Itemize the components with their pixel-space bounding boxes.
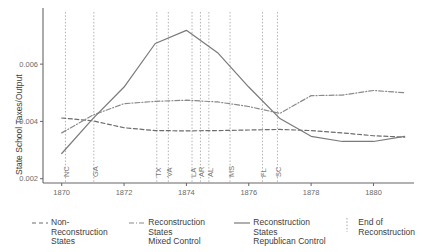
event-label-al: AL	[206, 168, 215, 177]
chart-container: State School Taxes/Output NCGATXVALAARAL…	[0, 0, 422, 252]
series-line-reconstruction-states-republican-control	[62, 30, 405, 153]
legend-label-end-of-reconstruction: End of Reconstruction	[358, 218, 415, 237]
event-label-sc: SC	[274, 166, 283, 177]
y-tick-label: 0.006	[19, 60, 38, 69]
plot-area: NCGATXVALAARALMSFLSC0.0020.0040.00618701…	[0, 0, 422, 218]
x-tick-label: 1878	[303, 188, 320, 197]
event-label-va: VA	[165, 168, 174, 177]
series-line-non-reconstruction-states	[62, 118, 405, 137]
legend-row: Non-Reconstruction States Reconstruction…	[0, 218, 422, 247]
x-tick-label: 1874	[178, 188, 195, 197]
x-tick-label: 1870	[53, 188, 70, 197]
legend-swatch-dashed	[32, 218, 48, 233]
legend-item-non-reconstruction: Non-Reconstruction States	[32, 218, 122, 247]
legend-label-mixed-control: Reconstruction States Mixed Control	[148, 218, 227, 247]
series-line-reconstruction-states-mixed-control	[62, 90, 405, 132]
legend-swatch-dotted	[339, 218, 355, 233]
legend-label-republican-control: Reconstruction States Republican Control	[253, 218, 332, 247]
x-tick-label: 1872	[116, 188, 133, 197]
legend-swatch-solid	[234, 218, 250, 233]
x-tick-label: 1876	[240, 188, 257, 197]
y-tick-label: 0.004	[19, 117, 38, 126]
event-label-nc: NC	[62, 166, 71, 177]
legend-label-non-reconstruction: Non-Reconstruction States	[51, 218, 122, 247]
legend-item-end-of-reconstruction: End of Reconstruction	[339, 218, 415, 237]
legend-swatch-dash-dot	[129, 218, 145, 233]
event-label-ms: MS	[227, 166, 236, 177]
event-label-tx: TX	[154, 167, 163, 177]
legend-item-republican-control: Reconstruction States Republican Control	[234, 218, 332, 247]
chart-legend: Non-Reconstruction States Reconstruction…	[0, 218, 422, 252]
event-label-ga: GA	[91, 166, 100, 177]
x-tick-label: 1880	[365, 188, 382, 197]
y-tick-label: 0.002	[19, 174, 38, 183]
legend-item-mixed-control: Reconstruction States Mixed Control	[129, 218, 227, 247]
event-label-fl: FL	[259, 168, 268, 177]
